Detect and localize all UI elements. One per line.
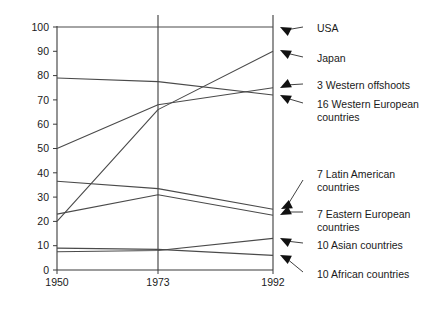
y-axis-tick-group: 0102030405060708090100 [31,21,57,276]
series-lines-group [57,27,273,255]
chart-container: 0102030405060708090100 195019731992 USAJ… [0,0,430,309]
series-label-western-offshoots: 3 Western offshoots [317,79,410,92]
y-axis-tick-label: 0 [43,264,49,276]
label-leader-lines-group [280,27,303,272]
y-axis-tick-label: 30 [37,191,49,203]
series-label-japan: Japan [317,52,346,65]
y-axis-tick-label: 50 [37,142,49,154]
line-chart: 0102030405060708090100 195019731992 [0,0,430,309]
y-axis-tick-label: 40 [37,167,49,179]
y-axis-tick-label: 100 [31,21,49,33]
series-label-usa: USA [317,22,339,35]
y-axis-tick-label: 80 [37,69,49,81]
label-arrow-head [280,79,292,88]
x-axis-group: 195019731992 [45,15,285,288]
series-label-african: 10 African countries [317,268,409,281]
y-axis-tick-label: 70 [37,94,49,106]
y-axis-tick-label: 10 [37,239,49,251]
x-axis-tick-label: 1950 [45,276,69,288]
series-label-asian: 10 Asian countries [317,239,403,252]
series-label-western-european: 16 Western European countries [317,98,419,123]
label-arrow-head [280,27,292,36]
series-line [57,88,273,149]
label-arrow-head [280,255,292,264]
series-label-latin-american: 7 Latin American countries [317,168,395,193]
y-axis-tick-label: 90 [37,45,49,57]
series-line [57,195,273,216]
label-arrow-head [280,50,292,59]
y-axis-tick-label: 60 [37,118,49,130]
series-label-eastern-european: 7 Eastern European countries [317,208,410,233]
y-axis-tick-label: 20 [37,215,49,227]
x-axis-tick-label: 1973 [146,276,170,288]
label-arrow-head [280,238,292,247]
x-axis-tick-label: 1992 [261,276,285,288]
